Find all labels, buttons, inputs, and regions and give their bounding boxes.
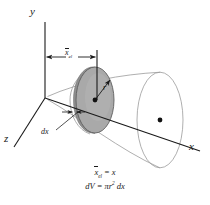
xel-dimension-label-sub: el — [69, 54, 73, 59]
equation-line-2: dV = πr2dx — [0, 180, 210, 191]
xel-dimension-label-bar: x — [65, 49, 69, 57]
label-layer: y x z xel r dx xel= x dV = πr2dx — [0, 0, 210, 205]
equation-2-exponent: 2 — [112, 180, 115, 186]
figure-canvas: y x z xel r dx xel= x dV = πr2dx — [0, 0, 210, 205]
thickness-label: dx — [41, 128, 49, 136]
equation-2-tail: dx — [117, 181, 125, 191]
xel-dimension-label: xel — [65, 49, 72, 60]
z-axis-label: z — [4, 133, 8, 144]
x-axis-label: x — [189, 141, 194, 152]
equation-1-rest: = x — [104, 167, 116, 177]
equation-line-1: xel= x — [0, 167, 210, 179]
y-axis-label: y — [30, 6, 35, 17]
equation-2-head: dV = πr — [85, 181, 112, 191]
equation-1-sub: el — [98, 173, 102, 179]
radius-label: r — [103, 84, 106, 92]
equation-1-bar: x — [94, 167, 98, 177]
